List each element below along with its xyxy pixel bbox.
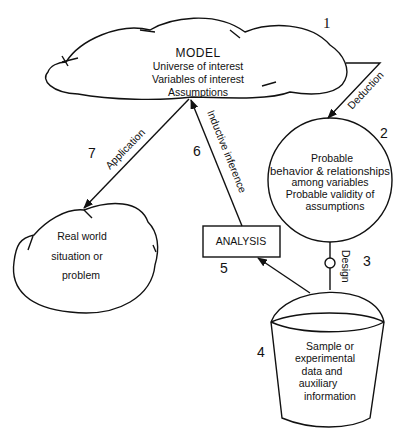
- deduction-line-4: Probable validity of: [286, 188, 375, 200]
- deduction-line-5: assumptions: [306, 200, 365, 212]
- real-world-line-3: problem: [62, 269, 100, 281]
- model-line-1: Universe of interest: [153, 60, 244, 72]
- sample-line-2: experimental: [295, 352, 355, 364]
- sample-line-5: information: [304, 390, 356, 402]
- model-line-3: Assumptions: [168, 86, 228, 98]
- deduction-line-3: among variables: [291, 176, 368, 188]
- deduction-arrow-label: Deduction: [345, 68, 386, 111]
- deduction-line-1: Probable: [311, 152, 353, 164]
- inductive-number: 6: [193, 143, 201, 159]
- application-number: 7: [88, 145, 96, 161]
- analysis-number: 5: [220, 260, 228, 276]
- sample-line-4: auxiliary: [299, 377, 338, 389]
- real-world-line-2: situation or: [51, 250, 103, 262]
- real-world-line-1: Real world: [57, 230, 107, 242]
- model-number: 1: [323, 15, 331, 31]
- model-title: MODEL: [175, 46, 220, 60]
- design-number: 3: [363, 253, 371, 269]
- design-label: Design: [340, 250, 352, 283]
- model-line-2: Variables of interest: [152, 73, 244, 85]
- sample-to-analysis-arrow: [258, 258, 310, 293]
- deduction-number: 2: [380, 125, 388, 141]
- sample-line-3: data and: [302, 365, 343, 377]
- design-connector: [325, 242, 335, 290]
- analysis-label: ANALYSIS: [216, 235, 267, 247]
- statistical-inference-cycle-diagram: 1 MODEL Universe of interest Variables o…: [0, 0, 402, 440]
- sample-line-1: Sample or: [306, 340, 354, 352]
- application-arrow: [84, 99, 189, 208]
- sample-number: 4: [257, 344, 265, 360]
